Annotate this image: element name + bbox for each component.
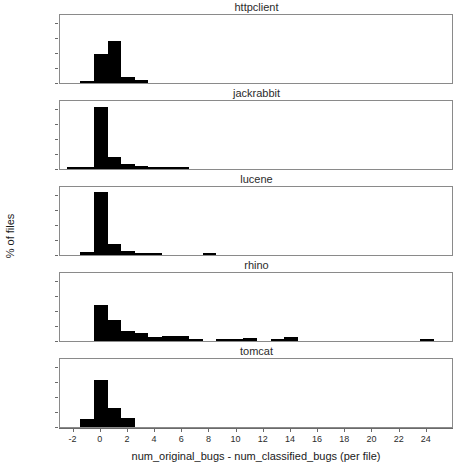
- y-tick-mark: [55, 311, 58, 312]
- x-tick-label: 24: [421, 434, 431, 444]
- bar: [148, 167, 162, 169]
- bar: [121, 164, 135, 169]
- x-axis-line: [59, 428, 453, 429]
- x-tick-mark: [73, 428, 74, 432]
- bar: [80, 252, 94, 255]
- x-tick-label: 18: [339, 434, 349, 444]
- x-axis-label-text: num_original_bugs - num_classified_bugs …: [132, 450, 381, 462]
- x-tick-label: 8: [206, 434, 211, 444]
- x-tick-label: 20: [366, 434, 376, 444]
- x-tick-mark: [263, 428, 264, 432]
- y-tick-mark: [55, 68, 58, 69]
- bar: [230, 339, 244, 341]
- y-axis-jackrabbit: 0%20%40%60%80%: [0, 100, 59, 170]
- y-axis-tomcat: 0%20%40%60%80%: [0, 358, 59, 428]
- bar: [121, 418, 135, 427]
- bar: [94, 305, 108, 341]
- x-tick-label: 22: [394, 434, 404, 444]
- plot-area-lucene: [59, 186, 453, 256]
- panel-title-rhino: rhino: [60, 258, 453, 272]
- x-tick-mark: [290, 428, 291, 432]
- x-tick-label: 0: [97, 434, 102, 444]
- bar: [189, 339, 203, 341]
- panel-title-tomcat: tomcat: [60, 344, 453, 358]
- bar: [80, 81, 94, 83]
- y-tick-mark: [55, 412, 58, 413]
- x-tick-label: 6: [179, 434, 184, 444]
- y-tick-mark: [55, 397, 58, 398]
- bar: [135, 253, 149, 255]
- bar: [108, 320, 122, 341]
- y-tick-mark: [55, 255, 58, 256]
- y-tick-mark: [55, 210, 58, 211]
- bar: [243, 338, 257, 341]
- bars-lucene: [60, 187, 452, 255]
- bar: [148, 253, 162, 255]
- x-tick-label: -2: [69, 434, 77, 444]
- x-tick-mark: [426, 428, 427, 432]
- x-tick-mark: [371, 428, 372, 432]
- panel-rhino: rhino0%20%40%60%80%: [0, 258, 461, 342]
- x-axis-label: num_original_bugs - num_classified_bugs …: [59, 450, 453, 462]
- x-tick-mark: [154, 428, 155, 432]
- x-tick-mark: [127, 428, 128, 432]
- y-tick-mark: [55, 169, 58, 170]
- x-tick-mark: [181, 428, 182, 432]
- bar: [108, 408, 122, 427]
- y-tick-mark: [55, 53, 58, 54]
- x-tick-mark: [317, 428, 318, 432]
- y-axis-lucene: 0%20%40%60%80%: [0, 186, 59, 256]
- y-tick-mark: [55, 240, 58, 241]
- plot-area-httpclient: [59, 14, 453, 84]
- y-axis-rhino: 0%20%40%60%80%: [0, 272, 59, 342]
- panel-httpclient: httpclient0%20%40%60%80%: [0, 0, 461, 84]
- bar: [284, 337, 298, 341]
- bar: [80, 167, 94, 169]
- y-tick-mark: [55, 124, 58, 125]
- x-tick-mark: [208, 428, 209, 432]
- y-tick-mark: [55, 139, 58, 140]
- bar: [121, 331, 135, 341]
- bar: [108, 157, 122, 169]
- plot-area-tomcat: [59, 358, 453, 428]
- y-tick-mark: [55, 382, 58, 383]
- x-tick-label: 2: [124, 434, 129, 444]
- x-tick-mark: [236, 428, 237, 432]
- bar: [175, 336, 189, 341]
- bar: [203, 253, 217, 255]
- panel-title-lucene: lucene: [60, 172, 453, 186]
- panel-title-jackrabbit: jackrabbit: [60, 86, 453, 100]
- y-tick-mark: [55, 296, 58, 297]
- plot-area-jackrabbit: [59, 100, 453, 170]
- y-tick-mark: [55, 38, 58, 39]
- panel-jackrabbit: jackrabbit0%20%40%60%80%: [0, 86, 461, 170]
- y-tick-mark: [55, 83, 58, 84]
- bar: [162, 336, 176, 341]
- panel-lucene: lucene0%20%40%60%80%: [0, 172, 461, 256]
- bar: [108, 244, 122, 255]
- y-tick-mark: [55, 154, 58, 155]
- bar: [94, 107, 108, 169]
- x-tick-label: 16: [312, 434, 322, 444]
- bar: [80, 419, 94, 427]
- y-tick-mark: [55, 23, 58, 24]
- x-tick-label: 10: [231, 434, 241, 444]
- x-tick-label: 12: [258, 434, 268, 444]
- bar: [121, 77, 135, 83]
- panel-tomcat: tomcat0%20%40%60%80%: [0, 344, 461, 428]
- x-tick-label: 14: [285, 434, 295, 444]
- bars-tomcat: [60, 359, 452, 427]
- y-tick-mark: [55, 341, 58, 342]
- y-tick-mark: [55, 195, 58, 196]
- y-tick-mark: [55, 109, 58, 110]
- bars-httpclient: [60, 15, 452, 83]
- bar: [216, 339, 230, 341]
- bar: [162, 167, 176, 169]
- bar: [108, 41, 122, 83]
- y-tick-mark: [55, 225, 58, 226]
- bar: [67, 167, 81, 169]
- bar: [135, 333, 149, 341]
- bar: [135, 166, 149, 169]
- bar: [94, 380, 108, 427]
- x-tick-mark: [344, 428, 345, 432]
